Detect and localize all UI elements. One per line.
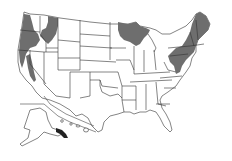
us-map: [0, 0, 232, 161]
